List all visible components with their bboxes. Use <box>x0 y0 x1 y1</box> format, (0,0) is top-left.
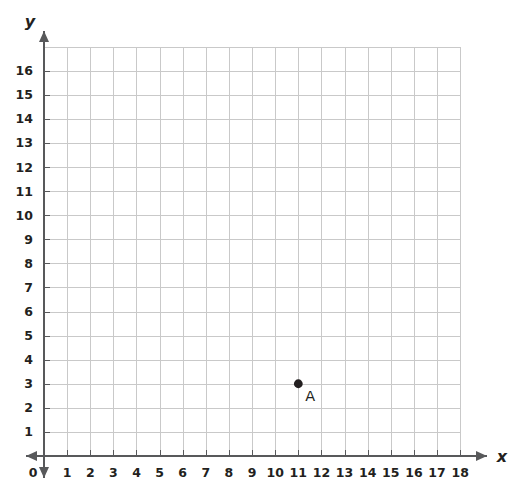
y-tick-label: 3 <box>24 376 33 391</box>
y-tick-label: 6 <box>24 304 33 319</box>
x-tick-label: 15 <box>382 465 399 480</box>
y-tick-label: 5 <box>24 328 33 343</box>
x-tick-label: 12 <box>313 465 330 480</box>
x-tick-label: 14 <box>359 465 377 480</box>
y-tick-label: 8 <box>24 256 33 271</box>
origin-label: 0 <box>29 465 38 480</box>
x-tick-label: 16 <box>405 465 423 480</box>
x-tick-label: 11 <box>290 465 307 480</box>
y-tick-label: 10 <box>16 208 34 223</box>
x-tick-label: 2 <box>86 465 95 480</box>
y-tick-label: 14 <box>16 111 34 126</box>
y-tick-label: 12 <box>16 160 33 175</box>
point-label: A <box>305 388 315 404</box>
x-tick-label: 4 <box>132 465 141 480</box>
coordinate-plane-figure: 123456789101112131415161718 123456789101… <box>0 0 520 496</box>
y-tick-label: 9 <box>24 232 33 247</box>
figure-background <box>0 0 520 496</box>
y-tick-label: 16 <box>16 63 34 78</box>
y-tick-label: 15 <box>16 87 33 102</box>
y-tick-label: 2 <box>24 400 33 415</box>
y-tick-label: 7 <box>24 280 33 295</box>
x-tick-label: 18 <box>451 465 468 480</box>
x-tick-label: 1 <box>63 465 72 480</box>
x-tick-label: 5 <box>155 465 164 480</box>
x-tick-label: 13 <box>336 465 353 480</box>
x-axis-label: x <box>496 447 508 466</box>
x-tick-label: 9 <box>248 465 257 480</box>
x-tick-label: 7 <box>201 465 210 480</box>
point-marker <box>294 379 303 388</box>
y-tick-label: 1 <box>24 424 33 439</box>
y-tick-label: 13 <box>16 135 33 150</box>
x-tick-label: 10 <box>266 465 284 480</box>
x-tick-label: 8 <box>225 465 234 480</box>
coordinate-grid-svg: 123456789101112131415161718 123456789101… <box>0 0 520 496</box>
x-tick-label: 17 <box>428 465 445 480</box>
y-tick-label: 11 <box>16 184 33 199</box>
y-axis-label: y <box>25 12 36 31</box>
x-tick-label: 6 <box>178 465 187 480</box>
y-tick-label: 4 <box>24 352 33 367</box>
x-tick-label: 3 <box>109 465 118 480</box>
